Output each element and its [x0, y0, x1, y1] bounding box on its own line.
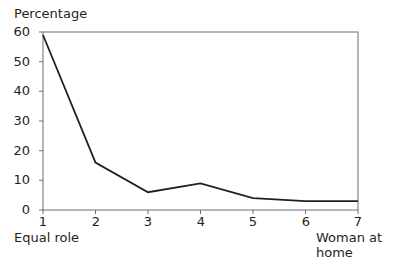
y-tick-marks	[39, 32, 43, 210]
x-tick-marks	[43, 210, 358, 214]
plot-area	[0, 0, 415, 258]
data-line	[43, 35, 358, 201]
